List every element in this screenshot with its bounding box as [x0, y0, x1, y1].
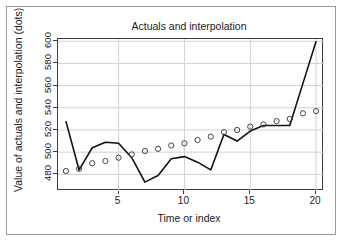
y-tick-500: 500 [43, 138, 53, 164]
y-tick-600: 600 [43, 27, 53, 53]
y-tick-560: 560 [43, 72, 53, 98]
plot-area [57, 38, 323, 190]
y-tick-480: 480 [43, 160, 53, 186]
data-series-layer [58, 39, 324, 191]
x-tick-5: 5 [106, 195, 130, 206]
chart-root: Actuals and interpolation Value of actua… [0, 0, 344, 243]
x-tick-10: 10 [171, 195, 195, 206]
x-axis-label: Time or index [55, 211, 323, 225]
x-tick-15: 15 [237, 195, 261, 206]
y-axis-label: Value of actuals and interpolation (dots… [11, 32, 25, 192]
chart-title: Actuals and interpolation [55, 19, 323, 33]
y-tick-580: 580 [43, 49, 53, 75]
x-tick-20: 20 [303, 195, 327, 206]
